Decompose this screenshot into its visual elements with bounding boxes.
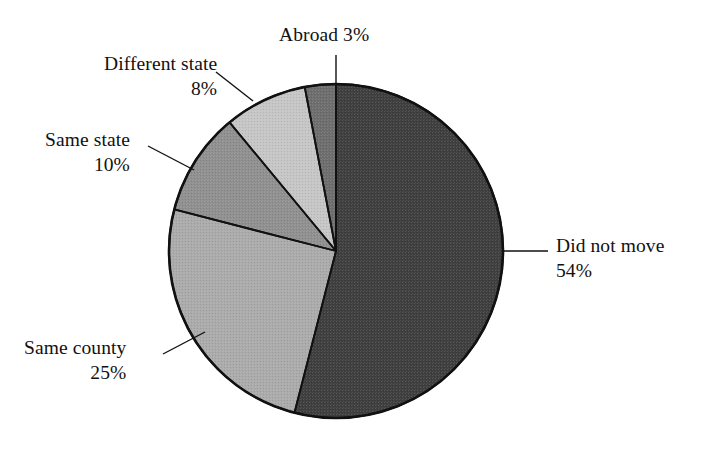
slice-label-same-state: Same state 10% xyxy=(45,128,130,178)
slice-label-same-county-value: 25% xyxy=(24,361,126,386)
slice-label-did-not-move-value: 54% xyxy=(556,259,664,284)
slice-label-different-state: Different state 8% xyxy=(104,52,217,102)
slice-label-same-state-value: 10% xyxy=(45,153,130,178)
slice-label-same-state-name: Same state xyxy=(45,128,130,153)
slice-label-different-state-name: Different state xyxy=(104,52,217,77)
slice-label-abroad-text: Abroad 3% xyxy=(279,23,369,48)
slice-label-same-county-name: Same county xyxy=(24,336,126,361)
pie-chart-figure: Abroad 3% Different state 8% Same state … xyxy=(0,0,706,455)
slice-label-did-not-move: Did not move 54% xyxy=(556,234,664,284)
slice-label-did-not-move-name: Did not move xyxy=(556,234,664,259)
slice-label-same-county: Same county 25% xyxy=(24,336,126,386)
leader-line-same-state xyxy=(148,146,194,170)
slice-label-different-state-value: 8% xyxy=(104,77,217,102)
leader-line-different-state xyxy=(216,72,253,101)
slice-label-abroad: Abroad 3% xyxy=(279,23,369,48)
